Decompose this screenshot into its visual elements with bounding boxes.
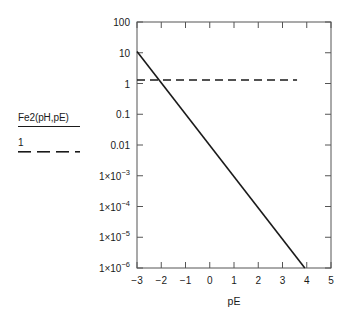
- x-tick-label: −3: [131, 275, 142, 286]
- x-tick-label: −2: [156, 275, 167, 286]
- plot-frame: [137, 22, 331, 268]
- y-tick-label: 1×10−4: [99, 201, 130, 212]
- x-axis-ticks: [137, 22, 331, 268]
- plot-frame-rect: [137, 22, 331, 268]
- x-tick-label: 5: [328, 275, 334, 286]
- x-tick-label: 0: [207, 275, 213, 286]
- y-tick-label: 1: [124, 78, 130, 89]
- x-tick-label: 1: [231, 275, 237, 286]
- y-tick-label: 0.01: [111, 140, 130, 151]
- data-series-group: [137, 51, 305, 268]
- y-axis-ticks: [137, 22, 331, 268]
- x-tick-label: 4: [304, 275, 310, 286]
- x-tick-label: −1: [180, 275, 191, 286]
- y-tick-label: 1×10−5: [99, 232, 130, 243]
- data-line-fe2: [137, 51, 305, 268]
- y-tick-label: 10: [119, 47, 130, 58]
- y-tick-label: 100: [113, 17, 130, 28]
- y-tick-label: 1×10−3: [99, 170, 130, 181]
- y-tick-label: 0.1: [116, 109, 130, 120]
- chart-figure: Fe2(pH,pE) 1 1001010.10.011×10−31×10−41×…: [0, 0, 346, 314]
- x-tick-label: 2: [255, 275, 261, 286]
- x-axis-title: pE: [228, 295, 241, 307]
- plot-canvas: [0, 0, 346, 314]
- x-tick-label: 3: [280, 275, 286, 286]
- y-tick-label: 1×10−6: [99, 263, 130, 274]
